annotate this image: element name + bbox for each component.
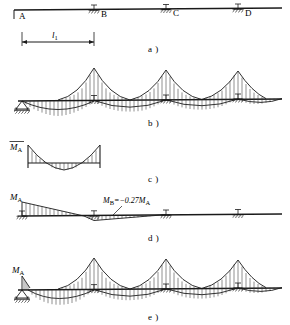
node-label-a: A [19,11,26,21]
support-a-e [14,290,30,303]
node-label-b: B [101,9,107,19]
annotation-mb-d: MB=−0.27MA [102,196,150,206]
peak-d-above-b [202,71,266,99]
figure-root: A B C D l1 a ) [0,0,290,325]
panel-label-e: e ) [148,312,159,322]
lobe-ab-below-b [22,101,94,116]
wedge-upper-d [22,202,84,216]
panel-b: b ) [14,68,282,128]
lobe-bc-below-b [94,100,166,112]
panel-label-c: c ) [148,174,159,184]
panel-e: MA [11,258,282,322]
moment-label-c: MA [9,142,24,154]
wedge-a-e [22,276,30,290]
panel-label-d: d ) [148,233,159,243]
node-label-c: C [173,8,179,18]
node-label-d: D [245,8,252,18]
hatch-upper-d [26,203,78,216]
dimension-l1: l1 [22,30,94,46]
lobe-ab-below-e [28,290,94,305]
panel-d: MA MB=−0.27MA [9,192,282,243]
panel-label-b: b ) [148,118,159,128]
panel-a: A B C D l1 a ) [14,4,282,54]
support-a-b [14,101,30,114]
svg-text:MA: MA [9,142,23,153]
annotation-leader-d [112,206,122,216]
lobe-bc-below-e [94,289,166,300]
peak-d-above-e [202,260,266,288]
lobe-cd-below-e [166,288,238,299]
beam-diagram-svg: A B C D l1 a ) [0,0,290,325]
lobe-cd-below-b [166,99,238,110]
hatch-c [32,151,96,171]
dimension-label-l1: l1 [52,30,58,41]
moment-label-e: MA [11,265,25,276]
panel-label-a: a ) [148,44,159,54]
moment-label-d: MA [9,192,23,203]
panel-c: MA c ) [9,142,159,185]
